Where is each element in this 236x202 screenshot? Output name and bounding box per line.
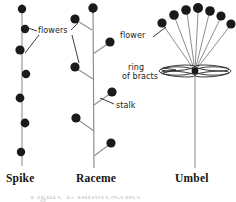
leader-flowers-spike-b	[25, 35, 39, 53]
leader-flowers-raceme-b	[72, 35, 79, 63]
annotation-flower: flower	[120, 31, 145, 40]
raceme-axis	[93, 6, 94, 168]
raceme-flower	[105, 37, 114, 46]
annotation-of-bracts: of bracts	[122, 72, 158, 81]
umbel-flower	[169, 10, 179, 20]
raceme-flower	[70, 14, 79, 23]
raceme-flower	[88, 3, 97, 12]
raceme-flower	[107, 87, 116, 96]
raceme-flower	[106, 138, 115, 147]
leader-flower-umbel	[153, 27, 166, 37]
leader-flowers-spike-a	[28, 28, 37, 31]
umbel-flower	[216, 11, 225, 20]
umbel-flower	[193, 3, 203, 13]
cut-off-caption-text: Figure 1. Inflorescence	[30, 196, 142, 201]
annotation-ring: ring	[128, 63, 144, 72]
panel-umbel	[157, 3, 235, 168]
spike-flower	[17, 148, 25, 156]
spike-flower	[16, 94, 25, 103]
panel-raceme	[70, 3, 116, 168]
caption-raceme: Raceme	[76, 172, 116, 184]
umbel-rays	[163, 12, 230, 71]
spike-flower	[21, 119, 30, 128]
leader-lines	[25, 23, 176, 104]
spike-flower	[21, 25, 29, 33]
spike-flower	[22, 70, 30, 78]
raceme-flower	[70, 62, 79, 71]
leader-stalk	[100, 98, 114, 104]
umbel-flower	[205, 6, 215, 16]
umbel-flower	[157, 18, 166, 27]
umbel-hub	[192, 68, 199, 75]
caption-umbel: Umbel	[175, 172, 209, 184]
umbel-flower	[226, 19, 235, 28]
cut-off-caption: Figure 1. Inflorescence	[0, 196, 236, 202]
annotation-stalk: stalk	[116, 101, 136, 110]
leader-flowers-raceme-a	[71, 23, 78, 30]
spike-flower	[18, 5, 26, 13]
caption-spike: Spike	[6, 172, 35, 184]
umbel-flower	[181, 5, 191, 15]
raceme-flower	[71, 113, 80, 122]
spike-flower	[15, 45, 24, 54]
annotation-flowers: flowers	[38, 26, 68, 35]
